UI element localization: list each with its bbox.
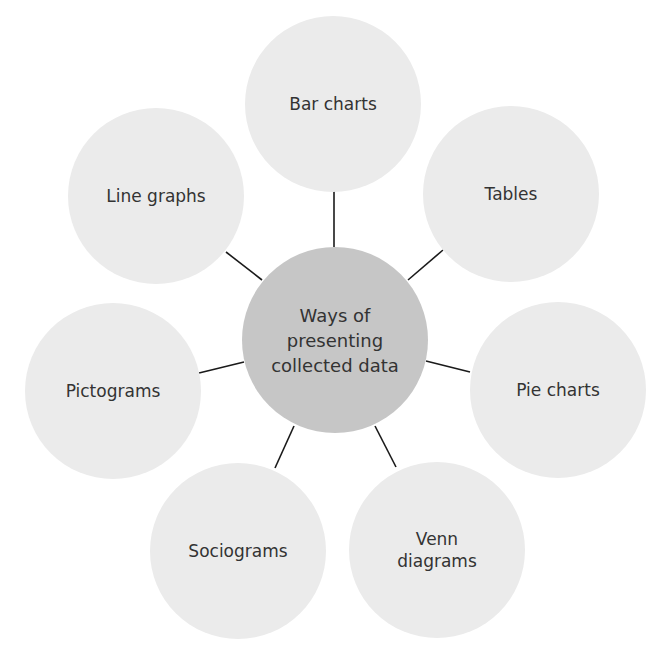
connector-pie-charts <box>426 361 470 372</box>
connector-line-graphs <box>226 252 262 280</box>
node-label: Pictograms <box>66 380 161 402</box>
node-label: Line graphs <box>106 185 205 207</box>
connector-sociograms <box>275 426 294 468</box>
node-label: Venn diagrams <box>397 528 477 572</box>
node-line-graphs: Line graphs <box>68 108 244 284</box>
node-label: Pie charts <box>516 379 600 401</box>
node-bar-charts: Bar charts <box>245 16 421 192</box>
central-node: Ways of presenting collected data <box>242 247 428 433</box>
node-tables: Tables <box>423 106 599 282</box>
node-label: Tables <box>485 183 538 205</box>
connector-pictograms <box>199 362 244 373</box>
central-node-label: Ways of presenting collected data <box>271 303 399 378</box>
node-pie-charts: Pie charts <box>470 302 646 478</box>
node-label: Sociograms <box>188 540 287 562</box>
node-label: Bar charts <box>289 93 377 115</box>
node-sociograms: Sociograms <box>150 463 326 639</box>
connector-venn-diagrams <box>375 426 396 467</box>
node-venn-diagrams: Venn diagrams <box>349 462 525 638</box>
connector-tables <box>408 250 443 280</box>
mind-map-diagram: Bar charts Tables Pie charts Venn diagra… <box>0 0 663 649</box>
node-pictograms: Pictograms <box>25 303 201 479</box>
